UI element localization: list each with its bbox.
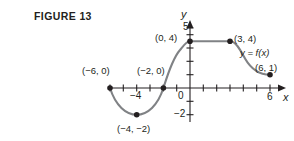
y-tick-label-neg2: −2 (174, 109, 185, 119)
y-tick-label-5: 5 (183, 22, 189, 32)
point-label-neg2-0: (−2, 0) (137, 66, 165, 76)
point-label-0-4: (0, 4) (155, 33, 177, 43)
figure-container: FIGURE 13 (0, 0, 294, 141)
x-tick-label-6: 6 (267, 92, 273, 102)
point-label-6-1: (6, 1) (255, 63, 277, 73)
point-marker-neg2-0 (161, 85, 167, 91)
point-marker-3-4 (227, 39, 233, 45)
x-axis-label: x (283, 92, 289, 103)
point-label-3-4: (3, 4) (234, 34, 256, 44)
function-label: y = f(x) (240, 48, 269, 58)
point-marker-neg6-0 (107, 85, 113, 91)
x-tick-label-neg4: −4 (130, 91, 141, 101)
point-marker-neg4-neg2 (134, 112, 140, 118)
point-marker-0-4 (187, 39, 193, 45)
y-axis-label: y (181, 9, 187, 20)
y-axis (187, 20, 194, 122)
point-label-neg4-neg2: (−4, −2) (117, 124, 150, 134)
origin-tick-label: 0 (178, 91, 184, 101)
point-label-neg6-0: (−6, 0) (82, 66, 110, 76)
